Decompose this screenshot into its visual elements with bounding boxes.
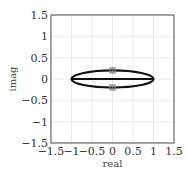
x-tick-label: 1.5 xyxy=(165,145,183,158)
x-tick-label: 0 xyxy=(109,145,116,158)
y-tick-label: 1.5 xyxy=(31,9,49,22)
x-tick-label: 0.5 xyxy=(124,145,142,158)
y-tick-labels: −1.5−1−0.500.511.5 xyxy=(21,9,48,150)
plot-series xyxy=(72,67,154,90)
complex-plane-plot: −1.5−1−0.500.511.5 −1.5−1−0.500.511.5 re… xyxy=(0,0,188,176)
x-tick-label: −1 xyxy=(63,145,79,158)
x-tick-label: −0.5 xyxy=(79,145,106,158)
y-tick-label: 0 xyxy=(41,73,48,86)
y-tick-label: 0.5 xyxy=(31,52,49,65)
y-tick-label: −1 xyxy=(32,116,48,129)
x-axis-label: real xyxy=(103,158,123,169)
y-tick-label: −0.5 xyxy=(21,94,48,107)
y-tick-label: −1.5 xyxy=(21,137,48,150)
y-tick-label: 1 xyxy=(41,30,48,43)
y-axis-label: imag xyxy=(7,66,18,92)
x-tick-label: 1 xyxy=(150,145,157,158)
x-tick-labels: −1.5−1−0.500.511.5 xyxy=(38,145,183,158)
